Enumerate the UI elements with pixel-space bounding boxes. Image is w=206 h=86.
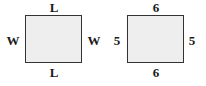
bottom-label: 6 bbox=[146, 66, 166, 79]
left-label: 5 bbox=[107, 34, 127, 47]
general-rectangle bbox=[25, 15, 82, 63]
left-label: W bbox=[3, 34, 23, 47]
bottom-label: L bbox=[44, 66, 64, 79]
top-label: 6 bbox=[146, 1, 166, 14]
right-label: W bbox=[84, 34, 104, 47]
top-label: L bbox=[44, 1, 64, 14]
numeric-rectangle bbox=[127, 15, 184, 63]
right-label: 5 bbox=[182, 34, 202, 47]
